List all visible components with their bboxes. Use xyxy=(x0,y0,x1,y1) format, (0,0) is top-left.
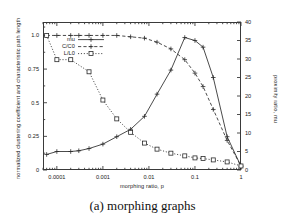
y-axis-right-ticklabel: 5 xyxy=(245,148,271,154)
y-axis-right-title: proximity ratio, mu xyxy=(273,19,279,179)
y-axis-right-ticklabel: 30 xyxy=(245,56,271,62)
legend-item: mu xyxy=(62,36,104,43)
x-axis-ticklabel: 0.001 xyxy=(83,174,123,180)
legend-item: C/C0 xyxy=(62,43,104,50)
legend-item-swatch xyxy=(78,36,104,43)
y-axis-left-ticklabel: 0.75 xyxy=(13,66,39,72)
y-axis-left-ticklabel: 1.0 xyxy=(13,32,39,38)
y-axis-left-ticklabel: 0.5 xyxy=(13,100,39,106)
x-axis-ticklabel: 1 xyxy=(221,174,261,180)
y-axis-right-ticklabel: 20 xyxy=(245,93,271,99)
legend-item: L/L0 xyxy=(62,50,104,57)
legend-item-swatch xyxy=(78,50,104,57)
x-axis-ticklabel: 0.0001 xyxy=(37,174,77,180)
legend-item-label: C/C0 xyxy=(62,43,75,50)
y-axis-right-ticklabel: 0 xyxy=(245,167,271,173)
y-axis-right-ticklabel: 35 xyxy=(245,37,271,43)
x-axis-ticklabel: 0.01 xyxy=(129,174,169,180)
plot-container: normalized clustering coefficient and ch… xyxy=(0,0,285,196)
legend-item-swatch xyxy=(78,43,104,50)
figure-morphing-graphs: normalized clustering coefficient and ch… xyxy=(0,0,285,224)
y-axis-left-ticklabel: 0 xyxy=(13,167,39,173)
figure-caption: (a) morphing graphs xyxy=(0,198,285,214)
y-axis-right-ticklabel: 10 xyxy=(245,130,271,136)
legend-item-label: mu xyxy=(67,36,75,43)
x-axis-title: morphing ratio, p xyxy=(43,183,241,189)
chart-legend: muC/C0L/L0 xyxy=(62,36,104,58)
y-axis-right-ticklabel: 15 xyxy=(245,111,271,117)
x-axis-ticklabel: 0.1 xyxy=(175,174,215,180)
legend-item-label: L/L0 xyxy=(64,50,75,57)
y-axis-right-ticklabel: 40 xyxy=(245,19,271,25)
y-axis-left-ticklabel: 0.25 xyxy=(13,133,39,139)
y-axis-right-ticklabel: 25 xyxy=(245,74,271,80)
